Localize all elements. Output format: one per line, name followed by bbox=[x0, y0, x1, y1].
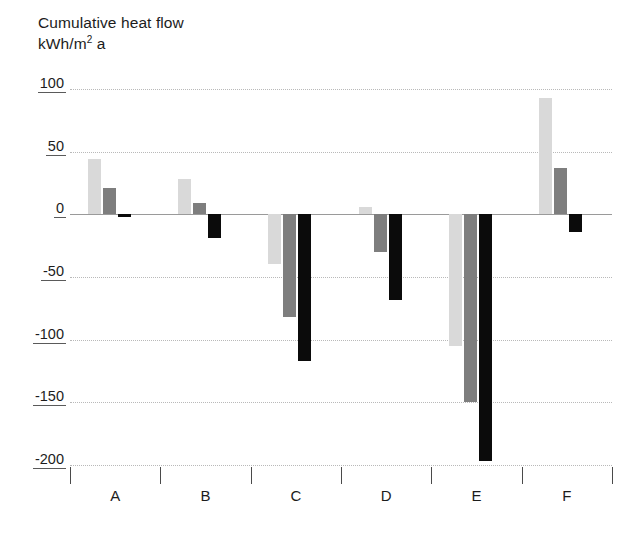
x-axis-tick-4 bbox=[431, 467, 432, 484]
unit-suffix: a bbox=[92, 35, 105, 52]
y-tick-label: -100 bbox=[33, 327, 66, 344]
y-tick--150: -150 bbox=[2, 387, 66, 406]
bar-C-series-medium bbox=[283, 214, 296, 317]
x-axis-tick-5 bbox=[522, 467, 523, 484]
x-axis-label-B: B bbox=[186, 487, 226, 504]
bar-C-series-light bbox=[268, 214, 281, 264]
gridline--100 bbox=[70, 340, 612, 341]
chart-title: Cumulative heat flow bbox=[38, 12, 184, 33]
y-tick--100: -100 bbox=[2, 325, 66, 344]
bar-F-series-medium bbox=[554, 168, 567, 214]
y-tick-50: 50 bbox=[2, 137, 66, 156]
bar-D-series-medium bbox=[374, 214, 387, 252]
x-axis-tick-6 bbox=[612, 467, 613, 484]
x-axis-label-D: D bbox=[366, 487, 406, 504]
bar-E-series-dark bbox=[479, 214, 492, 461]
y-tick-100: 100 bbox=[2, 74, 66, 93]
y-tick-label: -150 bbox=[33, 389, 66, 406]
bar-F-series-light bbox=[539, 98, 552, 215]
chart-page: Cumulative heat flow kWh/m2 a 100500-50-… bbox=[0, 0, 636, 533]
y-tick-label: 100 bbox=[38, 76, 66, 93]
x-axis-label-A: A bbox=[95, 487, 135, 504]
y-tick-label: 0 bbox=[54, 201, 66, 218]
bar-D-series-light bbox=[359, 207, 372, 215]
bar-B-series-light bbox=[178, 179, 191, 214]
x-axis-tick-2 bbox=[251, 467, 252, 484]
x-axis-tick-0 bbox=[70, 467, 71, 484]
bar-B-series-medium bbox=[193, 203, 206, 214]
x-axis-label-E: E bbox=[457, 487, 497, 504]
x-axis-label-F: F bbox=[547, 487, 587, 504]
y-tick--50: -50 bbox=[2, 262, 66, 281]
gridline-50 bbox=[70, 152, 612, 153]
bar-D-series-dark bbox=[389, 214, 402, 299]
y-tick--200: -200 bbox=[2, 450, 66, 469]
bar-E-series-light bbox=[449, 214, 462, 346]
gridline--50 bbox=[70, 277, 612, 278]
x-axis-tick-3 bbox=[341, 467, 342, 484]
gridline-100 bbox=[70, 89, 612, 90]
bar-A-series-medium bbox=[103, 188, 116, 214]
y-tick-0: 0 bbox=[2, 199, 66, 218]
bar-A-series-light bbox=[88, 159, 101, 214]
bar-A-series-dark bbox=[118, 214, 131, 217]
x-axis-label-C: C bbox=[276, 487, 316, 504]
bar-B-series-dark bbox=[208, 214, 221, 238]
gridline--150 bbox=[70, 402, 612, 403]
y-tick-label: -50 bbox=[41, 264, 66, 281]
plot-area: 100500-50-100-150-200 bbox=[70, 89, 612, 465]
x-axis: ABCDEF bbox=[70, 465, 612, 525]
chart-title-block: Cumulative heat flow kWh/m2 a bbox=[38, 12, 184, 54]
x-axis-tick-1 bbox=[160, 467, 161, 484]
bar-F-series-dark bbox=[569, 214, 582, 232]
bar-C-series-dark bbox=[298, 214, 311, 361]
unit-prefix: kWh/m bbox=[38, 35, 87, 52]
zero-axis-line bbox=[70, 214, 612, 215]
y-tick-label: 50 bbox=[46, 139, 66, 156]
chart-axis-unit-label: kWh/m2 a bbox=[38, 33, 184, 54]
y-tick-label: -200 bbox=[33, 452, 66, 469]
bar-E-series-medium bbox=[464, 214, 477, 402]
